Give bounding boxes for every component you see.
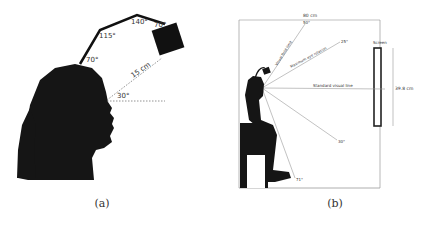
angle-label: 115° bbox=[99, 32, 116, 40]
figure-panel-b: 80 cm Screen 39.8 cm 50° 25° Visual fiel… bbox=[215, 0, 431, 228]
ponytail-silhouette bbox=[17, 108, 36, 178]
angle-label: 71° bbox=[296, 177, 303, 182]
figure-panel-a: 70° 115° 140° 70° 15 cm 30° (a) bbox=[0, 0, 215, 228]
screen-height-label: 39.8 cm bbox=[395, 86, 413, 91]
screen-label: Screen bbox=[373, 40, 387, 45]
ray-label: Standard visual line bbox=[313, 83, 353, 88]
width-label: 80 cm bbox=[303, 13, 317, 18]
angle-label: 70° bbox=[154, 21, 166, 29]
viewing-geometry-diagram: 80 cm Screen 39.8 cm 50° 25° Visual fiel… bbox=[215, 0, 431, 228]
angle-label: 30° bbox=[338, 139, 345, 144]
screen-rect bbox=[374, 48, 381, 126]
ray-label: Visual field limit bbox=[274, 40, 293, 67]
gaze-angle-label: 30° bbox=[117, 92, 129, 100]
angle-label: 25° bbox=[341, 39, 348, 44]
ray-label: Maximum eye rotation bbox=[290, 46, 328, 69]
angle-label: 50° bbox=[303, 20, 310, 25]
head-camera-diagram: 70° 115° 140° 70° 15 cm 30° bbox=[0, 0, 215, 228]
panel-a-caption: (a) bbox=[82, 197, 122, 210]
panel-b-caption: (b) bbox=[315, 197, 355, 210]
distance-label: 15 cm bbox=[130, 60, 153, 79]
angle-label: 70° bbox=[86, 56, 98, 64]
angle-label: 140° bbox=[131, 18, 148, 26]
